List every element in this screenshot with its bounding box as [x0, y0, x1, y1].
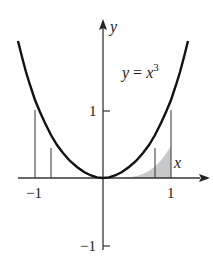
shaded-area-fill — [125, 146, 171, 178]
y-tick-label-1: 1 — [89, 103, 97, 119]
equation-rhs: x — [145, 64, 153, 81]
y-tick-label-neg1: −1 — [80, 238, 96, 254]
x-tick-label-neg1: −1 — [26, 185, 42, 201]
x-axis-label: x — [173, 154, 181, 171]
plot-canvas: y x y = x3 −1 1 1 −1 — [0, 0, 213, 256]
x-axis-arrow-icon — [199, 174, 210, 182]
equation-eq: = — [129, 64, 146, 81]
equation-exponent: 3 — [153, 61, 159, 73]
y-axis-label: y — [108, 18, 118, 36]
equation-label: y = x3 — [120, 61, 159, 82]
x-tick-label-1: 1 — [167, 185, 175, 201]
cubic-graph-figure: y x y = x3 −1 1 1 −1 — [0, 0, 213, 256]
